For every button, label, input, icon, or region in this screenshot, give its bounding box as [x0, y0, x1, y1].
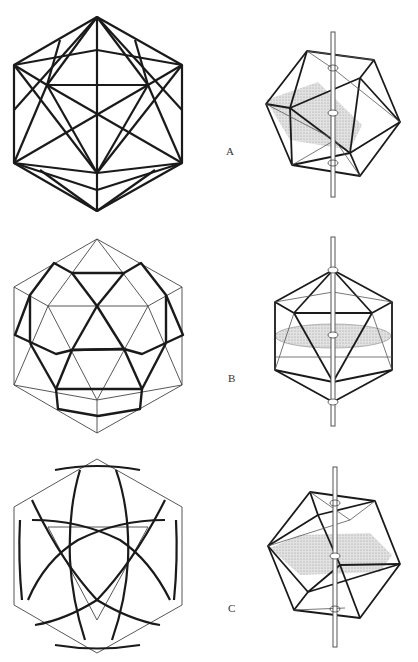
polyhedron-b-right [275, 237, 392, 426]
polyhedron-a-left [14, 17, 182, 211]
polyhedron-c-left [14, 459, 182, 653]
label-a: A [226, 145, 234, 157]
label-c: C [228, 602, 235, 614]
polyhedra-figure: A [0, 0, 418, 662]
label-b: B [228, 372, 235, 384]
figure: A [0, 0, 418, 662]
polyhedron-b-left [14, 239, 183, 433]
polyhedron-c-right [268, 467, 400, 647]
polyhedron-a-right [266, 32, 400, 197]
rotation-axis-b [331, 237, 335, 426]
